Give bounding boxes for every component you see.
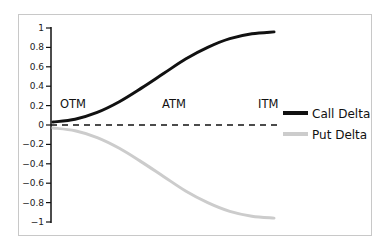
y-tick-label: 0.4 (30, 81, 45, 91)
y-tick-label: −0.8 (22, 198, 44, 208)
put-delta-line (53, 128, 274, 218)
y-tick-label: 0 (38, 120, 44, 130)
y-axis-ticks: 10.80.60.40.20−0.2−0.4−0.6−0.8−1 (22, 23, 51, 227)
legend-call-label: Call Delta (312, 107, 370, 121)
y-tick-label: −0.2 (22, 139, 44, 149)
y-tick-label: −0.4 (22, 159, 44, 169)
otm-label: OTM (60, 97, 86, 111)
y-tick-label: 0.8 (30, 42, 45, 52)
y-tick-label: −1 (31, 217, 44, 227)
y-tick-label: 0.2 (30, 101, 44, 111)
legend: Call Delta Put Delta (283, 107, 370, 142)
y-tick-label: 1 (38, 23, 44, 33)
itm-label: ITM (258, 97, 278, 111)
atm-label: ATM (162, 97, 186, 111)
y-tick-label: 0.6 (30, 62, 45, 72)
legend-put-label: Put Delta (312, 128, 367, 142)
y-tick-label: −0.6 (22, 178, 44, 188)
delta-chart: 10.80.60.40.20−0.2−0.4−0.6−0.8−1 OTM ATM… (0, 0, 390, 248)
